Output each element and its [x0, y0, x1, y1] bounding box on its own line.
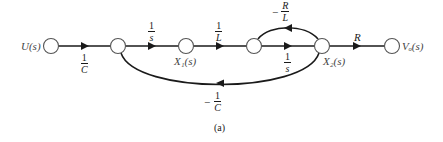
node-label-vo: Vₒ(s): [402, 41, 423, 52]
figure-caption: (a): [214, 122, 225, 133]
node-2: [111, 39, 126, 54]
gain-1-over-s-lower: 1s: [284, 51, 291, 74]
gain-neg-1-over-c: − 1C: [204, 90, 222, 113]
gain-1-over-l: 1L: [215, 20, 223, 43]
arrow-icon: [284, 24, 292, 32]
node-4: [247, 39, 262, 54]
node-label-x1: X₁(s): [174, 56, 196, 67]
node-x1: [179, 39, 194, 54]
node-label-u: U(s): [21, 41, 41, 52]
node-u: [44, 39, 59, 54]
arrow-icon: [216, 80, 224, 88]
node-label-x2: X₂(s): [323, 56, 345, 67]
gain-r: R: [354, 32, 361, 43]
gain-neg-r-over-l: − RL: [272, 0, 289, 23]
node-x2: [315, 39, 330, 54]
gain-1-over-c: 1C: [80, 52, 89, 75]
gain-1-over-s-top: 1s: [148, 20, 155, 43]
node-vo: [385, 39, 400, 54]
